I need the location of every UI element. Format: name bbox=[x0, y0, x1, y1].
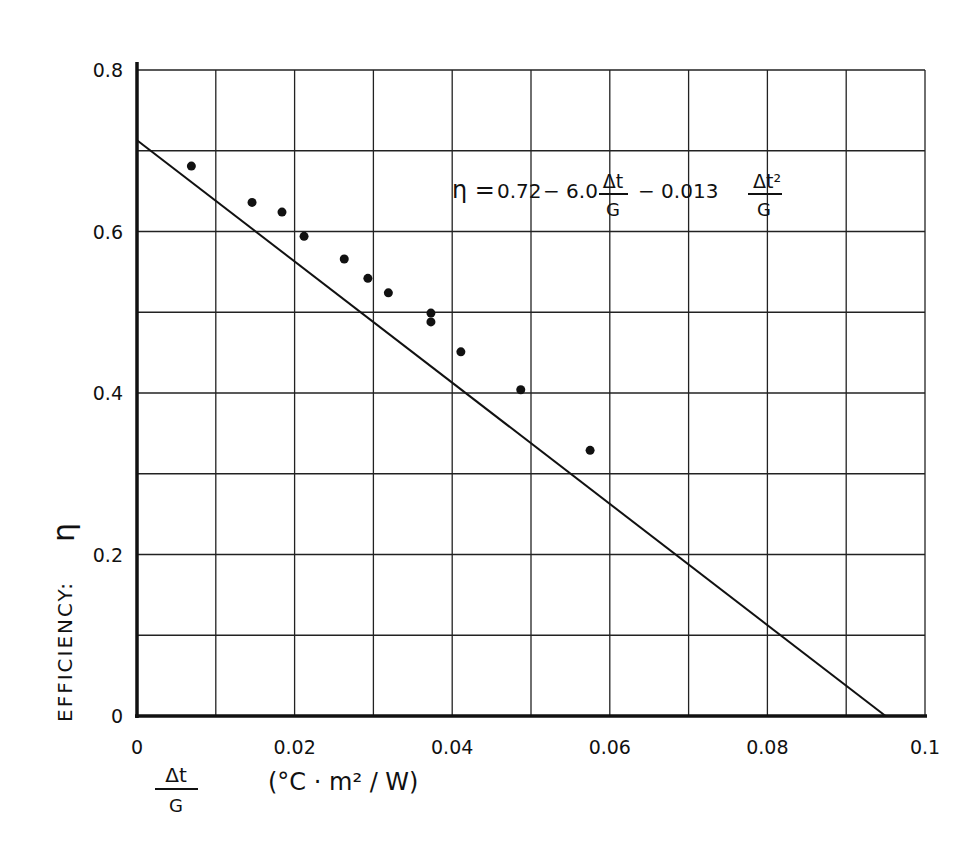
equation-annotation: η = 0.72 − 6.0 Δt G − 0.013 Δt² G bbox=[452, 170, 782, 220]
data-point bbox=[300, 232, 309, 241]
efficiency-chart: 00.020.040.060.080.1 00.20.40.60.8 η = 0… bbox=[0, 0, 975, 853]
x-tick-label: 0.04 bbox=[431, 736, 473, 758]
eq-c2: − 0.013 bbox=[638, 179, 718, 203]
x-label-denominator: G bbox=[169, 795, 183, 816]
data-point bbox=[384, 288, 393, 297]
fit-line bbox=[137, 140, 886, 716]
eq-frac2-den: G bbox=[757, 199, 771, 220]
x-tick-label: 0.08 bbox=[746, 736, 788, 758]
data-point bbox=[426, 317, 435, 326]
data-point bbox=[426, 309, 435, 318]
x-tick-labels: 00.020.040.060.080.1 bbox=[131, 736, 940, 758]
eq-c1: − 6.0 bbox=[543, 179, 598, 203]
eq-lhs: η = bbox=[452, 176, 495, 204]
y-axis-label-symbol: η bbox=[46, 523, 81, 542]
data-point bbox=[456, 347, 465, 356]
data-point bbox=[363, 274, 372, 283]
x-label-units: (°C · m² / W) bbox=[268, 768, 418, 796]
y-tick-label: 0.2 bbox=[93, 544, 123, 566]
eq-frac1-num: Δt bbox=[603, 170, 623, 192]
grid-lines bbox=[137, 70, 925, 716]
y-tick-label: 0.6 bbox=[93, 221, 123, 243]
data-point bbox=[340, 254, 349, 263]
y-tick-labels: 00.20.40.60.8 bbox=[93, 59, 123, 727]
data-point bbox=[277, 208, 286, 217]
x-label-numerator: Δt bbox=[165, 763, 187, 787]
x-tick-label: 0 bbox=[131, 736, 143, 758]
eq-frac2-num: Δt² bbox=[753, 170, 781, 192]
data-point bbox=[516, 385, 525, 394]
data-point bbox=[187, 162, 196, 171]
x-tick-label: 0.02 bbox=[273, 736, 315, 758]
data-point bbox=[586, 446, 595, 455]
x-tick-label: 0.06 bbox=[589, 736, 631, 758]
y-axis-label-text: EFFICIENCY: bbox=[53, 581, 77, 722]
y-tick-label: 0 bbox=[111, 705, 123, 727]
eq-c0: 0.72 bbox=[497, 179, 542, 203]
data-points bbox=[187, 162, 595, 455]
x-axis-label: Δt G (°C · m² / W) bbox=[155, 763, 418, 816]
data-point bbox=[248, 198, 257, 207]
y-axis-label: EFFICIENCY: η bbox=[46, 523, 81, 722]
y-tick-label: 0.4 bbox=[93, 382, 123, 404]
x-tick-label: 0.1 bbox=[910, 736, 940, 758]
fit-line-segment bbox=[137, 140, 886, 716]
y-tick-label: 0.8 bbox=[93, 59, 123, 81]
eq-frac1-den: G bbox=[606, 199, 620, 220]
